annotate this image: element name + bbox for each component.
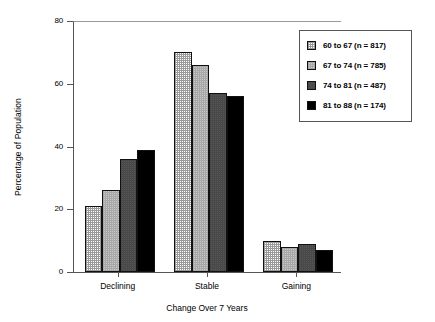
legend-swatch [307, 81, 316, 90]
x-axis-tick [118, 272, 119, 277]
x-axis-tick-label: Declining [73, 281, 163, 291]
y-axis-tick-label: 20 [23, 205, 63, 213]
legend-label: 74 to 81 (n = 487) [323, 81, 386, 90]
bar-chart: Percentage of Population 020406080 Decli… [0, 0, 435, 322]
y-axis-title: Percentage of Population [13, 67, 23, 227]
bar [281, 247, 299, 272]
y-axis-tick [67, 272, 73, 273]
x-axis-tick-label: Gaining [251, 281, 341, 291]
bar [263, 241, 281, 272]
y-axis-tick-label: 0 [23, 268, 63, 276]
bar [102, 190, 120, 272]
legend-label: 67 to 74 (n = 785) [323, 61, 386, 70]
bar [227, 96, 245, 272]
legend-item: 74 to 81 (n = 487) [307, 78, 386, 92]
y-axis-tick-label: 80 [23, 17, 63, 25]
legend-swatch [307, 41, 316, 50]
x-axis-tick-label: Stable [162, 281, 252, 291]
y-axis-tick-label: 40 [23, 143, 63, 151]
bar [137, 150, 155, 272]
x-axis-tick [207, 272, 208, 277]
x-axis-tick [296, 272, 297, 277]
legend: 60 to 67 (n = 817)67 to 74 (n = 785)74 t… [299, 30, 412, 122]
legend-item: 67 to 74 (n = 785) [307, 58, 386, 72]
legend-item: 60 to 67 (n = 817) [307, 38, 386, 52]
bar [209, 93, 227, 272]
legend-swatch [307, 61, 316, 70]
bar [174, 52, 192, 272]
x-axis-title: Change Over 7 Years [73, 303, 341, 313]
y-axis-tick-label: 60 [23, 80, 63, 88]
bar [192, 65, 210, 272]
legend-swatch [307, 101, 316, 110]
bar [316, 250, 334, 272]
bar [120, 159, 138, 272]
legend-label: 81 to 88 (n = 174) [323, 101, 386, 110]
bar [298, 244, 316, 272]
legend-label: 60 to 67 (n = 817) [323, 41, 386, 50]
bar [85, 206, 103, 272]
legend-item: 81 to 88 (n = 174) [307, 98, 386, 112]
